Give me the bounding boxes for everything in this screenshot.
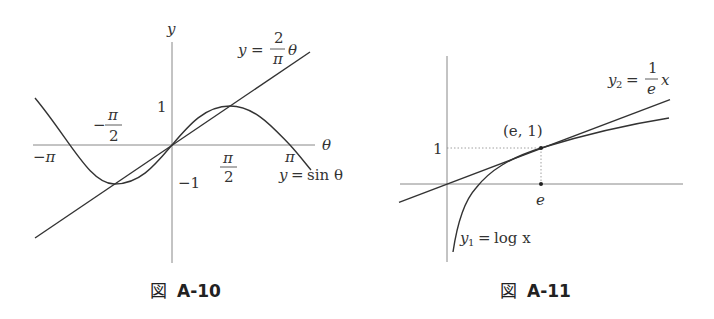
caption-prefix: 図	[500, 281, 517, 301]
label-lhs: y	[278, 166, 288, 184]
caption-a11: 図 A-11	[500, 281, 571, 301]
label-rhs: sin θ	[307, 166, 343, 184]
label-sub: 2	[616, 79, 622, 90]
frac-num: π	[107, 106, 119, 124]
sine-label: y = sin θ	[278, 166, 343, 184]
tick-one: 1	[433, 140, 443, 158]
figure-a10: y θ 1 −1 −π − π 2 π 2 π y = sin θ y =	[33, 20, 343, 301]
frac-den: 2	[109, 127, 119, 145]
caption-id: A-11	[527, 281, 571, 301]
figure-canvas: y θ 1 −1 −π − π 2 π 2 π y = sin θ y =	[0, 0, 714, 319]
frac-den: e	[647, 80, 656, 98]
theta-axis-label: θ	[322, 136, 331, 154]
label-eq: =	[478, 229, 491, 247]
caption-id: A-10	[177, 281, 221, 301]
label-lhs: y	[237, 41, 247, 59]
label-var: x	[661, 71, 670, 89]
label-eq: =	[626, 71, 639, 89]
tangent-point	[539, 146, 543, 150]
tick-one: 1	[157, 98, 167, 116]
log-label: y 1 = log x	[459, 229, 531, 248]
label-eq: =	[291, 166, 304, 184]
tick-e: e	[536, 191, 545, 209]
label-var: θ	[288, 41, 297, 59]
frac-den: π	[272, 50, 284, 68]
chord-label: y = 2 π θ	[237, 29, 297, 68]
tick-neg-pi: −π	[33, 148, 57, 166]
frac-den: 2	[224, 168, 234, 186]
label-sub: 1	[468, 237, 474, 248]
caption-a10: 図 A-10	[150, 281, 221, 301]
neg-sign: −	[93, 116, 106, 134]
tick-pi-over-2: π 2	[220, 149, 237, 186]
y-axis-label: y	[166, 20, 176, 38]
tick-pi: π	[284, 148, 296, 166]
frac-num: 2	[274, 29, 284, 47]
label-rhs: log x	[494, 229, 531, 247]
figure-a11: 1 e (e, 1) y 1 = log x y 2 = 1 e x 図 A-1…	[399, 56, 683, 301]
point-label: (e, 1)	[503, 122, 543, 140]
tick-neg-pi-over-2: − π 2	[93, 106, 122, 145]
e-point	[539, 182, 543, 186]
tick-neg-one: −1	[178, 174, 200, 192]
sine-curve	[35, 98, 311, 184]
frac-num: π	[222, 149, 234, 167]
caption-prefix: 図	[150, 281, 167, 301]
label-eq: =	[251, 41, 264, 59]
tangent-label: y 2 = 1 e x	[607, 59, 670, 98]
frac-num: 1	[648, 59, 658, 77]
